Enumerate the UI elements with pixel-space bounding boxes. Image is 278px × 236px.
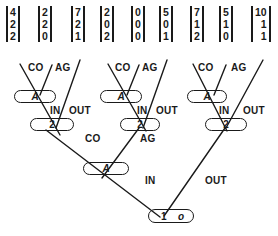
node-label: 2	[137, 119, 143, 130]
vector-value: 0	[42, 30, 48, 42]
vector-5: 0 0 0	[131, 6, 145, 42]
edge-label-out: OUT	[156, 105, 178, 116]
root-label: 1	[161, 211, 167, 222]
vector-value: 2	[42, 6, 48, 18]
vector-value: 5	[163, 6, 169, 18]
node-a: A	[83, 162, 129, 175]
node-label: A	[117, 91, 124, 102]
vector-value: 1	[261, 18, 267, 30]
node-label: A	[102, 163, 109, 174]
edge-label-co: CO	[28, 62, 43, 73]
vector-7: 7 1 2	[190, 6, 204, 42]
edge-label-ag: AG	[142, 62, 157, 73]
node-label: A	[31, 91, 38, 102]
node-2: 2	[205, 118, 247, 131]
vector-value: 1	[223, 18, 229, 30]
vector-value: 2	[104, 30, 110, 42]
edge-label-ag: AG	[231, 62, 246, 73]
vector-value: 0	[163, 18, 169, 30]
node-a: A	[100, 90, 142, 103]
vector-value: 1	[75, 30, 81, 42]
edge-label-out: OUT	[243, 105, 265, 116]
edge-label-out: OUT	[205, 175, 227, 186]
edge-label-in: IN	[50, 105, 60, 116]
vector-9: 10 1 1	[251, 6, 271, 42]
edge-label-co: CO	[198, 62, 213, 73]
edge-label-co: CO	[115, 62, 130, 73]
edge-label-ag: AG	[55, 62, 70, 73]
node-label: A	[203, 91, 210, 102]
root-node: 1 o	[148, 209, 194, 223]
vector-value: 2	[194, 30, 200, 42]
edge-label-in: IN	[145, 175, 155, 186]
edge-label-in: IN	[219, 105, 229, 116]
vector-value: 4	[10, 6, 16, 18]
vector-1: 4 2 2	[6, 6, 20, 42]
vector-value: 2	[42, 18, 48, 30]
vector-value: 7	[194, 6, 200, 18]
vector-value: 2	[10, 18, 16, 30]
node-a: A	[14, 90, 56, 103]
node-2: 2	[30, 118, 74, 131]
node-a: A	[187, 90, 227, 103]
edge-label-co: CO	[85, 133, 100, 144]
vector-value: 0	[135, 6, 141, 18]
vector-4: 2 0 2	[100, 6, 114, 42]
node-2: 2	[120, 118, 160, 131]
vector-value: 0	[104, 18, 110, 30]
vector-6: 5 0 1	[159, 6, 173, 42]
root-sub-label: o	[178, 211, 184, 222]
node-label: 2	[49, 119, 55, 130]
vector-value: 0	[223, 30, 229, 42]
vector-value: 1	[261, 30, 267, 42]
vector-value: 1	[194, 18, 200, 30]
edge-label-ag: AG	[140, 133, 155, 144]
vector-value: 0	[135, 30, 141, 42]
vector-value: 7	[75, 6, 81, 18]
vector-value: 0	[135, 18, 141, 30]
vector-8: 5 1 0	[219, 6, 233, 42]
vector-value: 1	[163, 30, 169, 42]
vector-2: 2 2 0	[38, 6, 52, 42]
vector-value: 2	[104, 6, 110, 18]
vector-value: 10	[255, 6, 267, 18]
node-label: 2	[223, 119, 229, 130]
edge-label-out: OUT	[69, 105, 91, 116]
vector-value: 2	[75, 18, 81, 30]
vector-value: 5	[223, 6, 229, 18]
edge-label-in: IN	[137, 105, 147, 116]
vector-value: 2	[10, 30, 16, 42]
vector-3: 7 2 1	[71, 6, 85, 42]
